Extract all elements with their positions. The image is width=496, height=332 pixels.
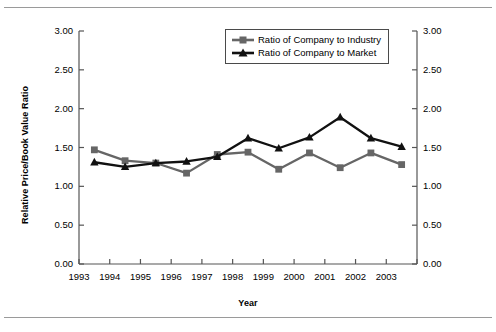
y-axis-right-tick-label: 0.00 <box>423 258 457 269</box>
legend-item-industry: Ratio of Company to Industry <box>231 33 381 46</box>
y-axis-left-tick-label: 1.00 <box>39 180 73 191</box>
y-axis-right-tick-label: 1.00 <box>423 180 457 191</box>
legend-item-market: Ratio of Company to Market <box>231 46 381 59</box>
legend-square-marker-icon <box>231 34 255 46</box>
chart-figure: Relative Price/Book Value Ratio Year 3.0… <box>0 0 496 332</box>
y-axis-left-tick-label: 2.00 <box>39 103 73 114</box>
legend-triangle-marker-icon <box>231 47 255 59</box>
legend-label-market: Ratio of Company to Market <box>255 47 376 58</box>
y-axis-right-tick-label: 0.50 <box>423 219 457 230</box>
y-axis-left-tick-label: 2.50 <box>39 64 73 75</box>
y-axis-left-tick-label: 3.00 <box>39 25 73 36</box>
chart-legend: Ratio of Company to Industry Ratio of Co… <box>225 29 389 64</box>
y-axis-right-tick-label: 2.50 <box>423 64 457 75</box>
legend-label-industry: Ratio of Company to Industry <box>255 34 381 45</box>
y-axis-left-tick-label: 0.00 <box>39 258 73 269</box>
x-axis-tick-label: 2003 <box>366 271 406 282</box>
y-axis-left-tick-label: 1.50 <box>39 142 73 153</box>
y-axis-right-tick-label: 1.50 <box>423 142 457 153</box>
y-axis-left-tick-label: 0.50 <box>39 219 73 230</box>
y-axis-title: Relative Price/Book Value Ratio <box>20 70 30 240</box>
y-axis-right-tick-label: 3.00 <box>423 25 457 36</box>
x-axis-title: Year <box>0 298 496 308</box>
y-axis-right-tick-label: 2.00 <box>423 103 457 114</box>
